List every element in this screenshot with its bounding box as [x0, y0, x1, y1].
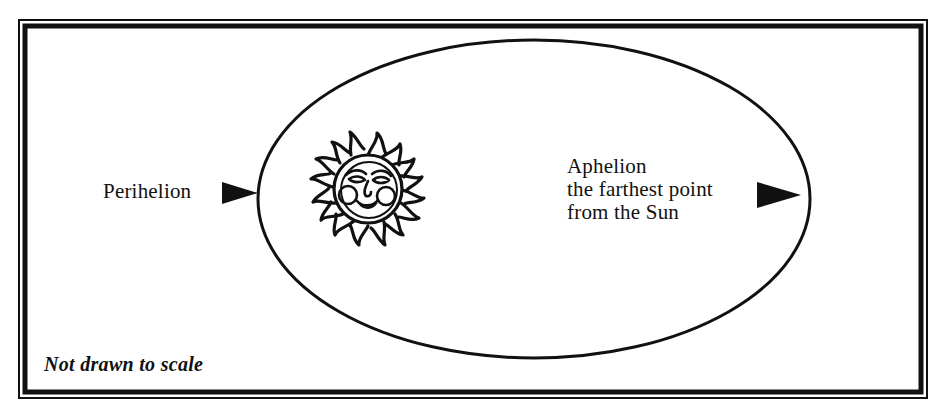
- aphelion-label-line-1: Aphelion: [567, 155, 713, 178]
- perihelion-arrow: [222, 182, 258, 204]
- not-drawn-to-scale-note: Not drawn to scale: [44, 353, 203, 376]
- aphelion-label: Aphelion the farthest point from the Sun: [567, 155, 713, 224]
- sun-with-face-icon: [311, 132, 424, 245]
- aphelion-arrow: [757, 182, 801, 208]
- frame-inner-rule: [25, 26, 921, 392]
- frame-outer-rule: [19, 20, 927, 398]
- aphelion-label-line-3: from the Sun: [567, 201, 713, 224]
- aphelion-label-line-2: the farthest point: [567, 178, 713, 201]
- perihelion-label: Perihelion: [103, 179, 191, 204]
- frame-border: [19, 20, 927, 398]
- orbit-diagram-page: Perihelion Aphelion the farthest point f…: [0, 0, 945, 416]
